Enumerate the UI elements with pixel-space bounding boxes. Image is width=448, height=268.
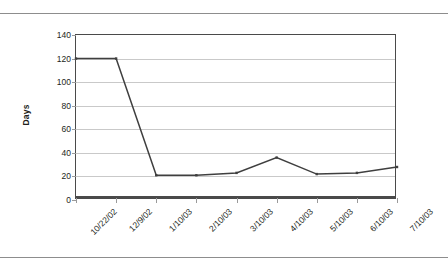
x-axis-tick-label: 10/22/02 — [90, 205, 120, 235]
data-point-marker — [356, 172, 358, 174]
y-axis-tick-label: 120 — [31, 54, 71, 64]
plot-area: 020406080100120140 10/22/0212/9/021/10/0… — [75, 34, 396, 199]
figure-page: Days 020406080100120140 10/22/0212/9/021… — [0, 0, 448, 268]
x-axis-tick-label: 12/9/02 — [128, 205, 155, 232]
y-axis-tick-label: 20 — [31, 171, 71, 181]
x-axis-tick-label: 5/10/03 — [329, 205, 356, 232]
x-axis-tick-mark — [397, 198, 398, 203]
y-axis-tick-label: 40 — [31, 148, 71, 158]
data-point-marker — [195, 174, 197, 176]
x-axis-tick-label: 7/10/03 — [409, 205, 436, 232]
data-point-marker — [396, 166, 398, 168]
data-point-marker — [275, 156, 277, 158]
line-chart: Days 020406080100120140 10/22/0212/9/021… — [0, 14, 448, 257]
x-axis-tick-label: 2/10/03 — [209, 205, 236, 232]
y-axis-tick-label: 100 — [31, 77, 71, 87]
data-point-marker — [115, 57, 117, 59]
y-axis-tick-label: 80 — [31, 101, 71, 111]
page-rule-bottom — [0, 257, 448, 258]
x-axis-tick-label: 3/10/03 — [249, 205, 276, 232]
x-axis-tick-label: 4/10/03 — [289, 205, 316, 232]
y-axis-title: Days — [21, 85, 31, 145]
x-axis-tick-label: 6/10/03 — [369, 205, 396, 232]
x-axis-tick-label: 1/10/03 — [169, 205, 196, 232]
data-point-marker — [155, 174, 157, 176]
y-axis-tick-label: 60 — [31, 124, 71, 134]
series-days — [76, 35, 397, 200]
y-axis-tick-label: 140 — [31, 30, 71, 40]
data-point-marker — [75, 57, 77, 59]
series-line — [76, 59, 397, 176]
data-point-marker — [316, 173, 318, 175]
y-axis-tick-label: 0 — [31, 195, 71, 205]
data-point-marker — [235, 172, 237, 174]
